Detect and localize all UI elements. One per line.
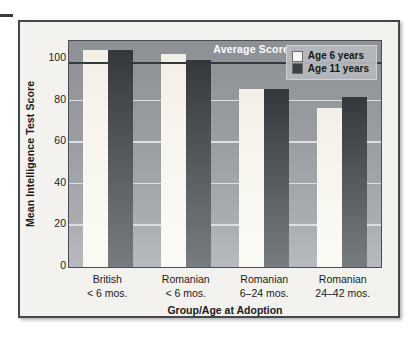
y-axis-title-label: Mean Intelligence Test Score <box>24 81 36 227</box>
y-tick-40: 40 <box>40 176 66 188</box>
y-tick-100: 100 <box>40 51 66 63</box>
bar-romanian-6to24-age6 <box>239 89 264 267</box>
legend-label-age-11-years: Age 11 years <box>308 63 369 76</box>
y-tick-0: 0 <box>40 259 66 271</box>
x-axis-title: Group/Age at Adoption <box>68 304 382 316</box>
chart-figure: Mean Intelligence Test Score 100 80 60 4… <box>0 0 418 341</box>
bar-romanian-lt6-age6 <box>161 54 186 267</box>
chart-legend: Age 6 years Age 11 years <box>286 45 377 80</box>
figure-frame: Mean Intelligence Test Score 100 80 60 4… <box>18 20 400 318</box>
bar-romanian-6to24-age11 <box>264 89 289 267</box>
bar-british-lt6-age11 <box>108 50 133 268</box>
bar-group-british-lt6 <box>69 41 147 267</box>
x-tick-romanian-6to24-line1: Romanian <box>225 272 304 286</box>
legend-swatch-icon-age-11-years <box>292 63 303 74</box>
y-axis-tick-labels: 100 80 60 40 20 0 <box>36 40 66 268</box>
plot-area: Average Score Age 6 years Age 11 years <box>68 40 382 268</box>
y-tick-20: 20 <box>40 217 66 229</box>
x-tick-romanian-24to42: Romanian 24–42 mos. <box>304 272 383 300</box>
bar-romanian-lt6-age11 <box>186 60 211 267</box>
legend-swatch-icon-age-6-years <box>292 51 303 62</box>
page-edge-tick-mark <box>0 14 13 17</box>
average-score-label: Average Score <box>213 43 289 55</box>
legend-label-age-6-years: Age 6 years <box>308 50 364 63</box>
legend-item-age-11-years: Age 11 years <box>292 63 369 76</box>
x-tick-romanian-lt6: Romanian < 6 mos. <box>147 272 226 300</box>
x-tick-romanian-lt6-line1: Romanian <box>147 272 226 286</box>
x-tick-romanian-6to24: Romanian 6–24 mos. <box>225 272 304 300</box>
x-axis-tick-labels: British < 6 mos. Romanian < 6 mos. Roman… <box>68 272 382 300</box>
bar-romanian-24to42-age11 <box>342 97 367 267</box>
legend-item-age-6-years: Age 6 years <box>292 50 369 63</box>
x-tick-romanian-lt6-line2: < 6 mos. <box>147 286 226 300</box>
x-tick-british-lt6-line2: < 6 mos. <box>68 286 147 300</box>
y-tick-80: 80 <box>40 93 66 105</box>
x-tick-romanian-24to42-line2: 24–42 mos. <box>304 286 383 300</box>
x-tick-british-lt6-line1: British <box>68 272 147 286</box>
x-tick-british-lt6: British < 6 mos. <box>68 272 147 300</box>
y-tick-60: 60 <box>40 134 66 146</box>
bar-group-romanian-lt6 <box>147 41 225 267</box>
x-tick-romanian-6to24-line2: 6–24 mos. <box>225 286 304 300</box>
bar-romanian-24to42-age6 <box>317 108 342 268</box>
x-tick-romanian-24to42-line1: Romanian <box>304 272 383 286</box>
bar-british-lt6-age6 <box>83 50 108 268</box>
